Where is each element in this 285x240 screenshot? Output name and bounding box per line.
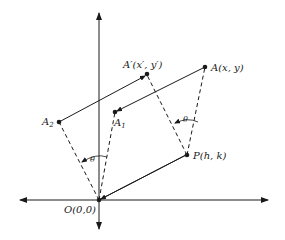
label-P: P(h, k) [192,150,226,161]
label-A2: A2 [41,116,54,129]
point-origin [97,198,102,203]
vector-A-to-A1 [117,67,205,111]
point-A2 [57,120,62,125]
label-A: A(x, y) [210,62,244,73]
theta-label-P: θ [183,115,188,124]
point-A-prime [145,72,150,77]
label-A1: A1 [113,117,126,130]
theta-label-O: θ [90,155,95,164]
vector-A2-to-Aprime [59,76,145,122]
point-P [185,153,190,158]
point-A1 [113,110,118,115]
dashed-lines [59,67,205,200]
point-A [203,65,208,70]
rotation-diagram: A(x, y) A′(x′, y′) A1 A2 P(h, k) O(0,0) … [0,0,285,240]
label-A-prime: A′(x′, y′) [122,59,163,70]
label-origin: O(0,0) [64,204,96,215]
